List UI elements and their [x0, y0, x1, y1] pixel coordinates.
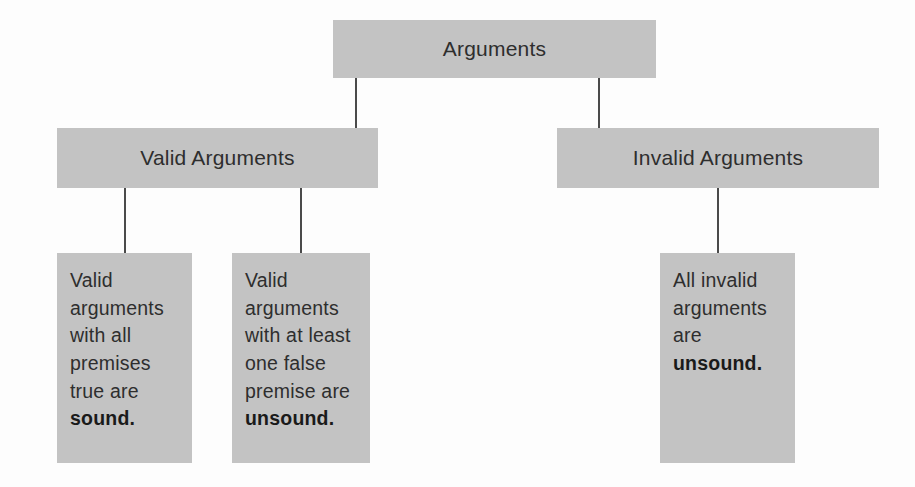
node-valid-unsound: Valid arguments with at least one false …: [232, 253, 370, 463]
node-valid-arguments-label: Valid Arguments: [140, 146, 294, 170]
node-invalid-arguments-label: Invalid Arguments: [633, 146, 803, 170]
connector-valid-to-sound: [124, 188, 126, 253]
node-valid-unsound-emphasis: unsound.: [245, 407, 334, 429]
node-arguments-label: Arguments: [443, 37, 546, 61]
node-arguments: Arguments: [333, 20, 656, 78]
node-valid-unsound-text: Valid arguments with at least one false …: [245, 269, 351, 402]
node-valid-sound: Valid arguments with all premises true a…: [57, 253, 192, 463]
connector-root-to-invalid: [598, 78, 600, 128]
node-invalid-unsound-emphasis: unsound.: [673, 352, 762, 374]
node-valid-sound-text: Valid arguments with all premises true a…: [70, 269, 164, 402]
node-invalid-arguments: Invalid Arguments: [557, 128, 879, 188]
argument-classification-diagram: Arguments Valid Arguments Invalid Argume…: [0, 0, 915, 487]
connector-root-to-valid: [355, 78, 357, 128]
node-invalid-unsound: All invalid arguments are unsound.: [660, 253, 795, 463]
node-valid-arguments: Valid Arguments: [57, 128, 378, 188]
node-valid-sound-emphasis: sound.: [70, 407, 135, 429]
connector-invalid-to-unsound: [717, 188, 719, 253]
connector-valid-to-unsound: [300, 188, 302, 253]
node-invalid-unsound-text: All invalid arguments are: [673, 269, 767, 346]
